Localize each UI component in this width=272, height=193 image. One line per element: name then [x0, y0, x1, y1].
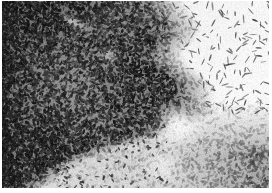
micrograph-figure — [0, 0, 272, 193]
histology-micrograph-image — [0, 0, 272, 193]
